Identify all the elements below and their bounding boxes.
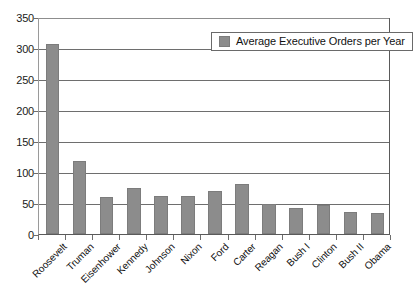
bar-reagan xyxy=(262,204,276,234)
y-tick-label-250: 250 xyxy=(0,75,34,86)
bar-johnson xyxy=(154,196,168,234)
y-tick-label-100: 100 xyxy=(0,168,34,179)
chart-legend: Average Executive Orders per Year xyxy=(211,32,413,51)
bar-chart: 050100150200250300350 RooseveltTrumanEis… xyxy=(0,0,420,292)
bar-truman xyxy=(73,161,87,234)
x-tick-mark-12 xyxy=(363,235,364,240)
legend-swatch-icon xyxy=(219,36,230,47)
x-tick-mark-6 xyxy=(200,235,201,240)
y-tick-label-0: 0 xyxy=(0,230,34,241)
y-tick-label-200: 200 xyxy=(0,106,34,117)
x-tick-mark-4 xyxy=(146,235,147,240)
bar-bush-ii xyxy=(344,212,358,234)
y-tick-label-350: 350 xyxy=(0,13,34,24)
bar-eisenhower xyxy=(100,197,114,234)
x-tick-mark-11 xyxy=(336,235,337,240)
x-tick-mark-2 xyxy=(92,235,93,240)
y-tick-label-150: 150 xyxy=(0,137,34,148)
bar-roosevelt xyxy=(46,44,60,234)
x-tick-mark-1 xyxy=(65,235,66,240)
bar-ford xyxy=(208,191,222,234)
x-tick-mark-3 xyxy=(119,235,120,240)
x-tick-mark-8 xyxy=(255,235,256,240)
bar-nixon xyxy=(181,196,195,234)
y-tick-label-50: 50 xyxy=(0,199,34,210)
x-tick-mark-5 xyxy=(173,235,174,240)
x-tick-mark-10 xyxy=(309,235,310,240)
x-tick-mark-9 xyxy=(282,235,283,240)
legend-label: Average Executive Orders per Year xyxy=(236,36,405,47)
y-tick-label-300: 300 xyxy=(0,44,34,55)
bar-kennedy xyxy=(127,188,141,235)
bar-clinton xyxy=(317,205,331,234)
x-tick-mark-13 xyxy=(390,235,391,240)
bar-bush-i xyxy=(289,208,303,234)
bar-carter xyxy=(235,184,249,234)
x-tick-mark-7 xyxy=(228,235,229,240)
x-tick-mark-0 xyxy=(38,235,39,240)
bar-obama xyxy=(371,213,385,234)
